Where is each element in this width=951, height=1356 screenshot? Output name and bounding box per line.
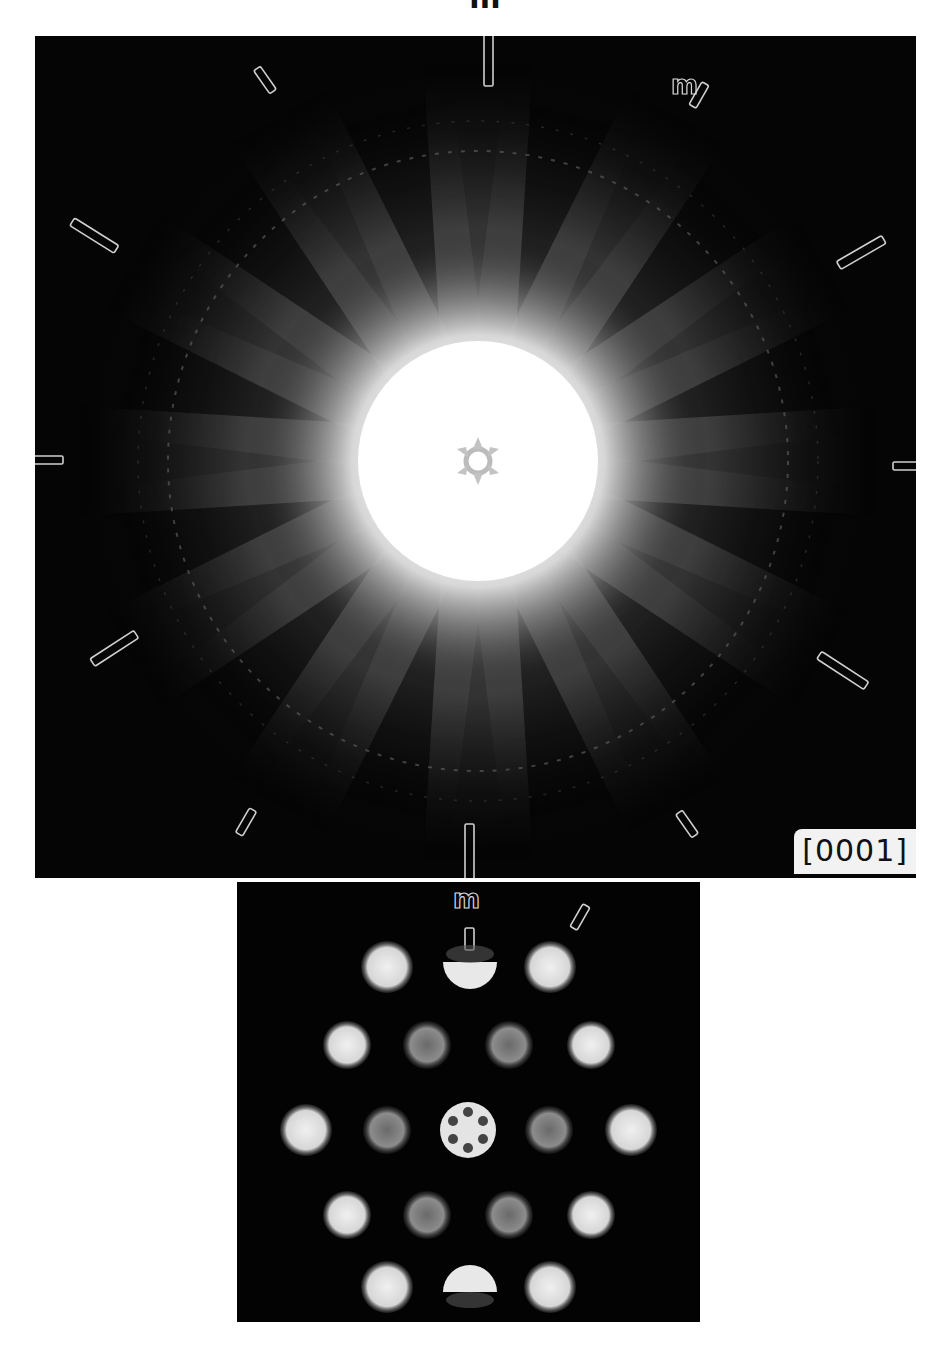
whole-pattern-graphic — [35, 36, 916, 878]
mirror-label-top: m — [455, 0, 515, 10]
whole-pattern-image: m [0001] — [35, 36, 916, 878]
disk-pattern-graphic — [237, 882, 700, 1322]
mirror-label-upper-right: m — [671, 70, 698, 100]
mirror-label-disk: m — [453, 884, 480, 914]
disk-pattern-image: m — [237, 882, 700, 1322]
zone-axis-label: [0001] — [794, 829, 916, 874]
